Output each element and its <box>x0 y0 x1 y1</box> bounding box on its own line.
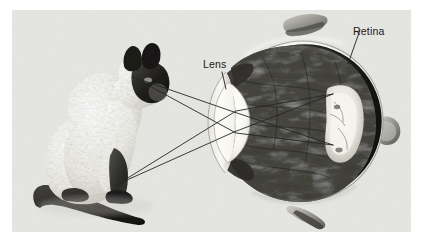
cat-muzzle <box>149 84 167 102</box>
cat-shadow <box>38 196 154 216</box>
label-retina: Retina <box>353 26 385 37</box>
label-lens: Lens <box>203 59 227 70</box>
photo-frame: Lens Retina <box>12 10 411 232</box>
figure-canvas: Lens Retina <box>0 0 423 242</box>
eye-optics-illustration <box>12 10 411 232</box>
